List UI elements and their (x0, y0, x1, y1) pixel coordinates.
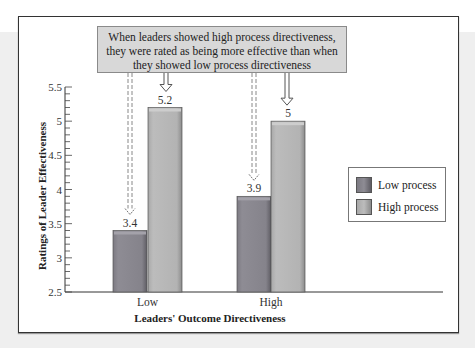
annotation-line-1: When leaders showed high process directi… (98, 30, 346, 44)
legend: Low process High process (348, 167, 446, 222)
bar-top-bevel (238, 197, 270, 200)
bar-top-bevel (149, 109, 181, 112)
y-tick-label: 5 (57, 115, 63, 127)
data-label: 5.2 (158, 94, 173, 106)
arrow-down-icon (160, 73, 172, 92)
arrow-down-icon (281, 73, 293, 105)
bar-top-bevel (114, 232, 146, 235)
y-tick-label: 5.5 (48, 81, 62, 93)
bar-low-0 (113, 231, 147, 293)
x-tick-label: High (260, 296, 283, 309)
data-label: 3.9 (247, 182, 262, 194)
annotation-box: When leaders showed high process directi… (97, 26, 347, 73)
legend-label-high: High process (378, 201, 438, 213)
bar-low-1 (148, 108, 182, 293)
legend-label-low: Low process (378, 179, 436, 191)
y-tick-label: 3 (57, 252, 63, 264)
legend-swatch-high (356, 199, 372, 215)
annotation-line-2: they were rated as being more effective … (98, 44, 346, 58)
arrow-down-icon (125, 209, 135, 215)
y-axis-label: Ratings of Leader Effectiveness (36, 121, 48, 271)
bar-top-bevel (272, 122, 304, 125)
x-axis-label: Leaders' Outcome Directiveness (130, 312, 290, 324)
y-tick-label: 2.5 (48, 286, 62, 298)
bar-high-1 (271, 121, 305, 292)
bar-high-0 (237, 196, 271, 292)
legend-item-high-process: High process (356, 198, 438, 216)
annotation-line-3: they showed low process directiveness (98, 58, 346, 72)
data-label: 5 (285, 107, 291, 119)
y-tick-label: 3.5 (48, 218, 62, 230)
x-tick-label: Low (137, 296, 159, 308)
y-tick-label: 4 (57, 184, 63, 196)
legend-swatch-low (356, 177, 372, 193)
y-tick-label: 4.5 (48, 149, 62, 161)
data-label: 3.4 (123, 217, 138, 229)
bars: 3.45.2Low3.95High (113, 94, 305, 310)
arrow-down-icon (249, 174, 259, 180)
legend-item-low-process: Low process (356, 176, 436, 194)
